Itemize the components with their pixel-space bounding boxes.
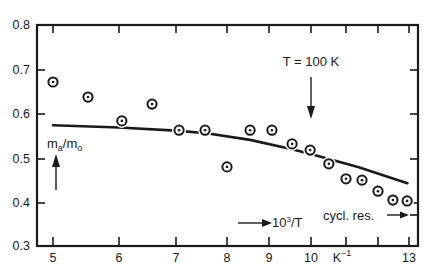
x-unit-label: K−1 [333,248,352,265]
y-tick-label: 0.6 [13,107,30,121]
data-point [243,123,257,137]
data-point [81,90,95,104]
data-point [46,75,60,89]
y-up-arrow-icon [52,154,60,190]
data-point [339,172,353,186]
data-point [145,97,159,111]
y-tick-label: 0.4 [13,196,30,210]
y-tick-label: 0.8 [13,18,30,32]
theory-curve [53,125,407,183]
y-tick-label: 0.3 [13,239,30,253]
data-points [46,75,414,208]
y-tick-label: 0.5 [13,152,30,166]
x-tick-label: 5 [50,251,57,265]
right-arrow-icon [238,219,272,227]
x-tick-labels: 5 6 7 8 9 10 13 K−1 [50,248,416,265]
data-point [386,193,400,207]
data-point [322,157,336,171]
cyclotron-resonance-label: cycl. res. [323,208,374,223]
y-tick-labels: 0.8 0.7 0.6 0.5 0.4 0.3 [13,18,30,253]
data-point [303,143,317,157]
y-tick-label: 0.7 [13,63,30,77]
data-point [172,123,186,137]
x-tick-label: 7 [173,251,180,265]
down-arrow-icon [307,77,315,119]
data-point [115,114,129,128]
x-tick-label: 10 [304,251,318,265]
data-point [355,173,369,187]
data-point [285,137,299,151]
chart: 0.8 0.7 0.6 0.5 0.4 0.3 5 6 7 8 9 10 13 … [0,0,430,266]
data-point [371,184,385,198]
x-tick-label: 8 [224,251,231,265]
x-axis-label: 103/T [272,215,303,230]
data-point [400,194,414,208]
data-point [220,160,234,174]
cyclotron-arrow-icon [387,212,418,219]
x-tick-label: 13 [402,251,416,265]
data-point [198,123,212,137]
data-point [265,123,279,137]
y-axis-label: ma/mo [47,136,82,153]
x-tick-label: 9 [266,251,273,265]
temperature-annotation: T = 100 K [283,54,340,69]
x-tick-label: 6 [116,251,123,265]
